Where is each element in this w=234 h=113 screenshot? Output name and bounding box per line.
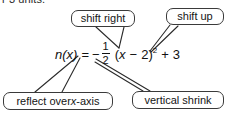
equation-lhs: n(x)	[55, 48, 77, 61]
equation-inner-variable: x	[119, 48, 126, 61]
equation-equals: =	[81, 48, 89, 61]
equation-vertical-shift: 3	[173, 48, 180, 61]
callout-vertical-shrink-label: vertical shrink	[144, 95, 211, 106]
equation-coefficient-fraction: 1 2	[102, 41, 110, 66]
callout-reflect-prefix: reflect over	[16, 96, 70, 107]
equation-leading-minus: −	[92, 48, 100, 61]
callout-shift-up: shift up	[166, 8, 224, 25]
fraction-denominator: 2	[102, 53, 110, 66]
equation-inner-minus: −	[130, 48, 138, 61]
callout-reflect-over-x-axis: reflect over x-axis	[3, 92, 113, 110]
equation-exponent: 2	[153, 47, 157, 55]
callout-reflect-suffix: -axis	[76, 96, 99, 107]
equation: n(x) = − 1 2 ( x − 2 ) 2 + 3	[55, 42, 180, 67]
transformation-annotation-diagram: r 3 units. n(x) = − 1 2 ( x	[0, 0, 234, 113]
callout-shift-right-label: shift right	[81, 13, 126, 24]
callout-shift-right: shift right	[71, 10, 135, 27]
equation-plus: +	[161, 48, 169, 61]
fraction-numerator: 1	[102, 41, 110, 53]
equation-inner-constant: 2	[141, 48, 148, 61]
callout-vertical-shrink: vertical shrink	[132, 91, 224, 109]
callout-shift-up-label: shift up	[177, 11, 212, 22]
